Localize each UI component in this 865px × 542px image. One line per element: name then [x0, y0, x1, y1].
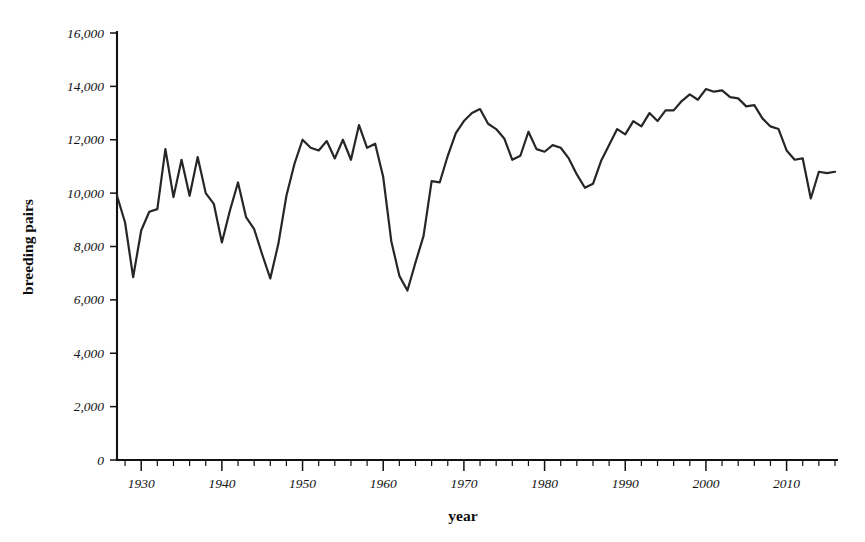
x-tick-label: 1980 — [531, 476, 558, 491]
y-tick-label: 2,000 — [74, 399, 105, 414]
chart-figure: 02,0004,0006,0008,00010,00012,00014,0001… — [0, 0, 865, 542]
x-tick-label: 2010 — [773, 476, 800, 491]
y-tick-label: 0 — [97, 453, 104, 468]
x-tick-label: 1960 — [370, 476, 397, 491]
y-tick-label: 10,000 — [67, 186, 104, 201]
x-tick-label: 2000 — [692, 476, 719, 491]
line-chart-canvas: 02,0004,0006,0008,00010,00012,00014,0001… — [0, 0, 865, 542]
y-tick-label: 6,000 — [74, 292, 105, 307]
y-tick-label: 12,000 — [67, 132, 104, 147]
y-tick-label: 4,000 — [74, 346, 105, 361]
x-axis-ticks: 193019401950196019701980199020002010 — [125, 460, 835, 491]
y-tick-label: 16,000 — [67, 26, 104, 41]
data-series-breeding-pairs — [117, 89, 835, 290]
x-axis-title: year — [448, 507, 477, 524]
x-tick-label: 1990 — [612, 476, 639, 491]
y-axis-title: breeding pairs — [19, 199, 36, 295]
y-tick-label: 8,000 — [74, 239, 105, 254]
y-axis-ticks: 02,0004,0006,0008,00010,00012,00014,0001… — [67, 26, 117, 468]
x-tick-label: 1950 — [289, 476, 316, 491]
x-tick-label: 1940 — [208, 476, 235, 491]
x-tick-label: 1970 — [450, 476, 477, 491]
y-tick-label: 14,000 — [67, 79, 104, 94]
x-tick-label: 1930 — [128, 476, 155, 491]
